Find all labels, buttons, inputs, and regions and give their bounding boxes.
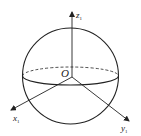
x-axis-label: x1 bbox=[12, 113, 20, 124]
y-axis bbox=[72, 77, 129, 121]
equator-back-dashed bbox=[23, 67, 119, 76]
y-axis-label: y1 bbox=[120, 123, 128, 134]
sphere-outline bbox=[23, 28, 119, 124]
origin-label: O bbox=[61, 67, 69, 79]
z-axis-label: z1 bbox=[75, 10, 83, 21]
sphere-diagram: O z1 x1 y1 bbox=[0, 0, 141, 136]
x-axis bbox=[11, 77, 72, 110]
